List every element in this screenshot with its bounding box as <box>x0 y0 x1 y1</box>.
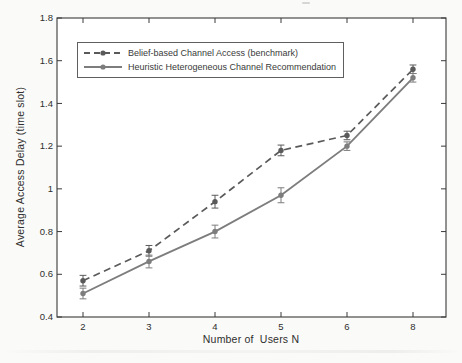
legend-line-sample-dashed <box>83 47 123 59</box>
data-point-marker <box>278 193 283 198</box>
data-point-marker <box>146 248 151 253</box>
y-tick-label: 1.2 <box>40 140 53 151</box>
x-axis-label: Number of Users N <box>203 333 299 345</box>
legend-label-heuristic: Heuristic Heterogeneous Channel Recommen… <box>128 62 336 72</box>
y-tick-label: 0.4 <box>40 311 53 322</box>
y-tick-label: 1.6 <box>40 55 53 66</box>
y-tick-label: 0.6 <box>40 268 53 279</box>
y-tick-label: 1 <box>48 183 53 194</box>
legend-label-benchmark: Belief-based Channel Access (benchmark) <box>128 48 298 58</box>
x-tick-label: 5 <box>278 321 283 332</box>
x-tick-label: 4 <box>212 321 217 332</box>
data-point-marker <box>80 278 85 283</box>
y-tick-label: 1.8 <box>40 12 53 23</box>
figure: 2345680.40.60.811.21.41.61.8 Average Acc… <box>0 0 462 363</box>
scan-artifact-bottom <box>0 350 462 353</box>
y-tick-label: 1.4 <box>40 98 53 109</box>
data-point-marker <box>410 75 415 80</box>
data-point-marker <box>410 67 415 72</box>
x-tick-label: 3 <box>146 321 151 332</box>
legend-line-sample-solid <box>83 61 123 73</box>
data-point-marker <box>80 291 85 296</box>
y-axis-label: Average Access Delay (time slot) <box>14 87 26 247</box>
data-point-marker <box>344 143 349 148</box>
x-tick-label: 6 <box>344 321 349 332</box>
data-point-marker <box>344 133 349 138</box>
y-tick-label: 0.8 <box>40 226 53 237</box>
x-tick-label: 8 <box>410 321 415 332</box>
data-point-marker <box>278 148 283 153</box>
data-point-marker <box>212 199 217 204</box>
legend: Belief-based Channel Access (benchmark) … <box>77 42 344 78</box>
legend-item-benchmark: Belief-based Channel Access (benchmark) <box>83 46 336 59</box>
x-tick-label: 2 <box>80 321 85 332</box>
data-point-marker <box>146 259 151 264</box>
scan-artifact-top <box>302 2 310 4</box>
legend-item-heuristic: Heuristic Heterogeneous Channel Recommen… <box>83 60 336 73</box>
data-point-marker <box>212 229 217 234</box>
